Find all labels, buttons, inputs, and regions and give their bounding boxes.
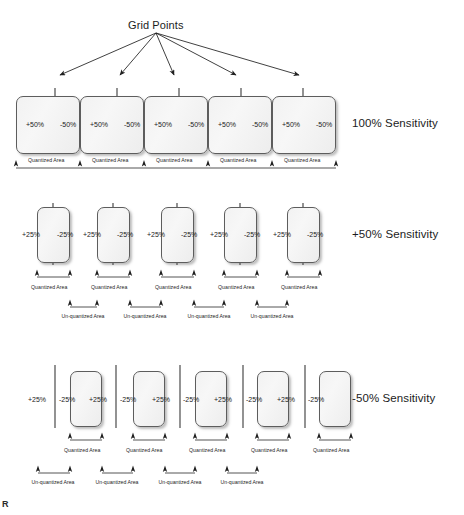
percent-label: -25% — [59, 396, 75, 403]
percent-label: -25% — [244, 231, 260, 238]
quantized-area-label: Quantized Area — [155, 285, 191, 290]
percent-label: -25% — [117, 231, 133, 238]
unquantized-area-label: Un-quantized Area — [29, 479, 77, 486]
quantized-area-label: Quantized Area — [31, 285, 67, 290]
unquantized-area-label: Un-quantized Area — [248, 313, 296, 320]
percent-label: +25% — [152, 396, 170, 403]
percent-label: +50% — [90, 121, 108, 128]
percent-label: +50% — [154, 121, 172, 128]
quantized-area-label: Quantized Area — [189, 448, 225, 453]
percent-label: +25% — [214, 396, 232, 403]
percent-label: -25% — [57, 231, 73, 238]
unquantized-area-label: Un-quantized Area — [59, 313, 107, 320]
sensitivity-label-100: 100% Sensitivity — [352, 118, 438, 130]
percent-label: -50% — [316, 121, 332, 128]
percent-label: +25% — [210, 231, 228, 238]
percent-label: +25% — [28, 396, 46, 403]
quantized-area-label: Quantized Area — [156, 158, 192, 163]
percent-label: +50% — [218, 121, 236, 128]
grid-points-arrows — [60, 33, 299, 75]
quantized-area-label: Quantized Area — [28, 158, 64, 163]
quantized-area-label: Quantized Area — [251, 448, 287, 453]
unquantized-area-label: Un-quantized Area — [121, 313, 169, 320]
unquantized-area-label: Un-quantized Area — [218, 479, 266, 486]
unquantized-area-label: Un-quantized Area — [185, 313, 233, 320]
percent-label: -25% — [181, 231, 197, 238]
percent-label: +50% — [26, 121, 44, 128]
row-minus50-quantized-ticks — [68, 433, 353, 439]
quantized-area-label: Quantized Area — [284, 158, 320, 163]
percent-label: -50% — [124, 121, 140, 128]
row-plus50-quantized-ticks — [35, 270, 322, 276]
quantized-area-label: Quantized Area — [313, 448, 349, 453]
quantized-area-label: Quantized Area — [218, 285, 254, 290]
percent-label: -25% — [307, 231, 323, 238]
page-title: Grid Points — [128, 20, 184, 31]
percent-label: -50% — [252, 121, 268, 128]
percent-label: -25% — [246, 396, 262, 403]
row-plus50-unquantized-ticks — [68, 300, 289, 306]
percent-label: +25% — [147, 231, 165, 238]
percent-label: -25% — [308, 396, 324, 403]
percent-label: +25% — [277, 396, 295, 403]
sensitivity-label-plus50: +50% Sensitivity — [352, 229, 438, 241]
unquantized-area-label: Un-quantized Area — [93, 479, 141, 486]
percent-label: +25% — [273, 231, 291, 238]
quantized-area-label: Quantized Area — [220, 158, 256, 163]
unquantized-area-label: Un-quantized Area — [156, 479, 204, 486]
percent-label: -50% — [188, 121, 204, 128]
sensitivity-label-minus50: -50% Sensitivity — [352, 393, 435, 405]
quantized-area-label: Quantized Area — [92, 158, 128, 163]
diagram-canvas: Grid Points +50% -50% +50% -50% +50% -50… — [0, 0, 464, 515]
percent-label: -50% — [60, 121, 76, 128]
quantized-area-label: Quantized Area — [64, 448, 100, 453]
percent-label: -25% — [120, 396, 136, 403]
quantized-area-label: Quantized Area — [281, 285, 317, 290]
corner-watermark: R — [2, 499, 10, 509]
quantized-area-label: Quantized Area — [126, 448, 162, 453]
percent-label: +25% — [22, 231, 40, 238]
row-minus50-unquantized-ticks — [36, 466, 259, 472]
quantized-area-label: Quantized Area — [91, 285, 127, 290]
percent-label: +25% — [83, 231, 101, 238]
percent-label: +50% — [282, 121, 300, 128]
percent-label: -25% — [183, 396, 199, 403]
percent-label: +25% — [89, 396, 107, 403]
